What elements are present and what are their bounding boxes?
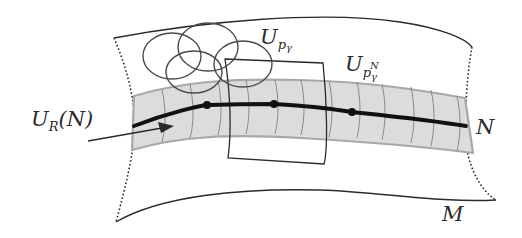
point-3	[348, 108, 356, 116]
point-1	[203, 101, 211, 109]
circle-2	[178, 23, 238, 71]
circle-1	[143, 33, 201, 79]
label-chart-p-gamma: Upγ	[260, 25, 292, 53]
label-tube-neighborhood: UR(N)	[31, 107, 93, 134]
manifold-bottom-edge	[116, 190, 496, 222]
label-submanifold-n: N	[475, 115, 495, 139]
label-manifold-m: M	[441, 202, 464, 226]
manifold-top-edge	[114, 17, 472, 47]
label-chart-p-gamma-n: UpγN	[345, 52, 380, 82]
manifold-diagram: UR(N) Upγ UpγN N M	[0, 0, 522, 238]
point-2	[270, 100, 278, 108]
